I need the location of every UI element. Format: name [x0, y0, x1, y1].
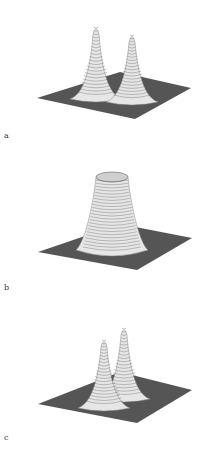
surface-plot-c: [0, 300, 206, 449]
panel-label-b: b: [4, 284, 9, 292]
surface-plot-a: [0, 0, 206, 150]
panel-label-c: c: [4, 434, 8, 442]
panel-label-a: a: [4, 132, 9, 140]
panel-b: b: [0, 150, 206, 300]
panel-a: a: [0, 0, 206, 150]
panel-c: c: [0, 300, 206, 449]
surface-plot-b: [0, 150, 206, 300]
